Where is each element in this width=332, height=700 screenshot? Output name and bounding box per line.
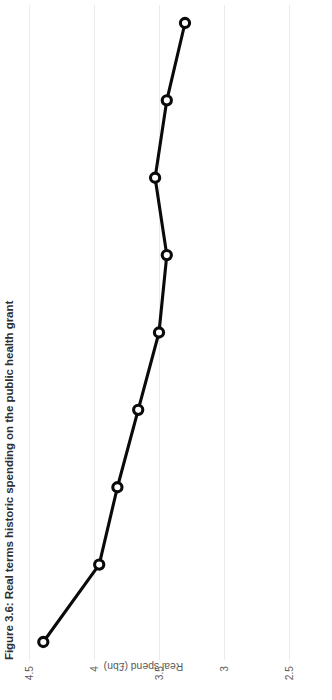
gridline [289,5,290,660]
data-point-marker [113,483,122,492]
data-point-marker [154,328,163,337]
series-markers [39,18,190,646]
data-point-marker [95,560,104,569]
data-point-marker [134,405,143,414]
chart-figure: Figure 3.6: Real terms historic spending… [0,0,332,700]
data-point-marker [162,251,171,260]
y-axis-title: Real spend (£bn) [14,661,274,672]
series-chart [29,5,289,660]
page-title: Figure 3.6: Real terms historic spending… [2,20,15,660]
figure-rotator: Figure 3.6: Real terms historic spending… [0,0,332,700]
figure-title-text: Real terms historic spending on the publ… [2,301,15,603]
data-point-marker [151,173,160,182]
y-axis-tick-label: 2.5 [284,666,295,680]
data-point-marker [180,18,189,27]
data-point-marker [39,637,48,646]
data-point-marker [162,96,171,105]
figure-number-label: Figure 3.6: [2,602,15,660]
plot-area [29,5,289,660]
